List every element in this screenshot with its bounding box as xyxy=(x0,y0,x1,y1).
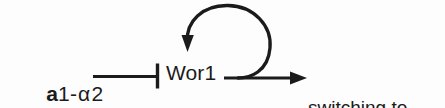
output-line-1: switching to xyxy=(308,96,422,108)
node-label-wor1: Wor1 xyxy=(166,62,216,83)
self-loop-arrowhead xyxy=(182,35,194,52)
a1-alpha2-suffix: 2 xyxy=(91,82,103,105)
pathway-diagram: switching to Opaque state --> a1-α2 Wor1… xyxy=(0,0,445,108)
activation-arrowhead xyxy=(290,72,307,85)
node-label-a1-alpha2: a1-α2 xyxy=(22,62,103,108)
node-label-output: switching to Opaque state xyxy=(308,50,422,108)
edge-activation-output xyxy=(224,72,307,85)
a1-alpha2-middle: 1- xyxy=(58,82,77,105)
a1-alpha2-bold-a: a xyxy=(46,82,58,105)
alpha-glyph: α xyxy=(77,82,91,105)
